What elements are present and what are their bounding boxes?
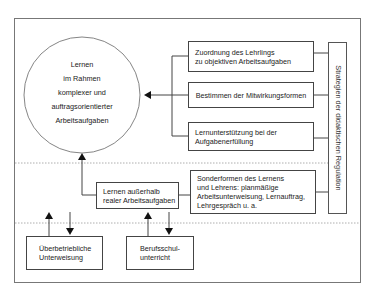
strategy-label: Strategien der didaktischen Regulation (333, 65, 342, 190)
box-bestimmen: Bestimmen der Mitwirkungsformen (188, 82, 314, 108)
box-text-line: und Lehrens: planmäßige (197, 183, 315, 192)
ausserhalb-to-circle-head (78, 153, 86, 160)
box-sonderformen: Sonderformen des Lernens und Lehrens: pl… (190, 170, 316, 214)
ueber-up-head (45, 212, 53, 219)
box-berufsschule: Berufsschul- unterricht (126, 236, 194, 270)
box-zuordnung: Zuordnung des Lehrlings zu objektiven Ar… (188, 41, 314, 72)
box-ueberbetrieblich: Überbetriebliche Unterweisung (26, 236, 103, 270)
circle-line: auftragsorientierter (30, 100, 134, 114)
box-text-line: Zuordnung des Lehrlings (195, 48, 313, 57)
circle-line: komplexer und (30, 86, 134, 100)
box-ausserhalb: Lernen außerhalb realer Arbeitsaufgaben (96, 182, 179, 209)
beruf-up-head (144, 212, 152, 219)
box-text-line: zu objektiven Arbeitsaufgaben (195, 57, 313, 66)
box-text-line: Lehrgespräch u. a. (197, 201, 315, 210)
box-text-line: Bestimmen der Mitwirkungsformen (196, 91, 307, 100)
circle-line: Arbeitsaufgaben (30, 114, 134, 128)
box-lernunterstuetzung: Lernunterstützung bei der Aufgabenerfüll… (188, 122, 314, 151)
box-text-line: Lernunterstützung bei der (195, 128, 313, 137)
arrow-to-circle-head (144, 91, 151, 99)
box-text-line: Aufgabenerfüllung (195, 137, 313, 146)
box-text-line: Überbetriebliche (39, 244, 102, 253)
circle-line: im Rahmen (30, 72, 134, 86)
box-text-line: unterricht (140, 253, 193, 262)
beruf-down-head (165, 228, 173, 235)
box-text-line: Lernen außerhalb (103, 187, 178, 196)
ueber-down-head (66, 228, 74, 235)
circle-line: Lernen (30, 58, 134, 72)
box-text-line: Berufsschul- (140, 244, 193, 253)
box-text-line: Unterweisung (39, 253, 102, 262)
circle-label: Lernen im Rahmen komplexer und auftragso… (30, 58, 134, 128)
box-text-line: Sonderformen des Lernens (197, 174, 315, 183)
strategy-bar: Strategien der didaktischen Regulation (328, 42, 347, 214)
box-text-line: Arbeitsunterweisung, Lernauftrag, (197, 192, 315, 201)
box-text-line: realer Arbeitsaufgaben (103, 196, 178, 205)
